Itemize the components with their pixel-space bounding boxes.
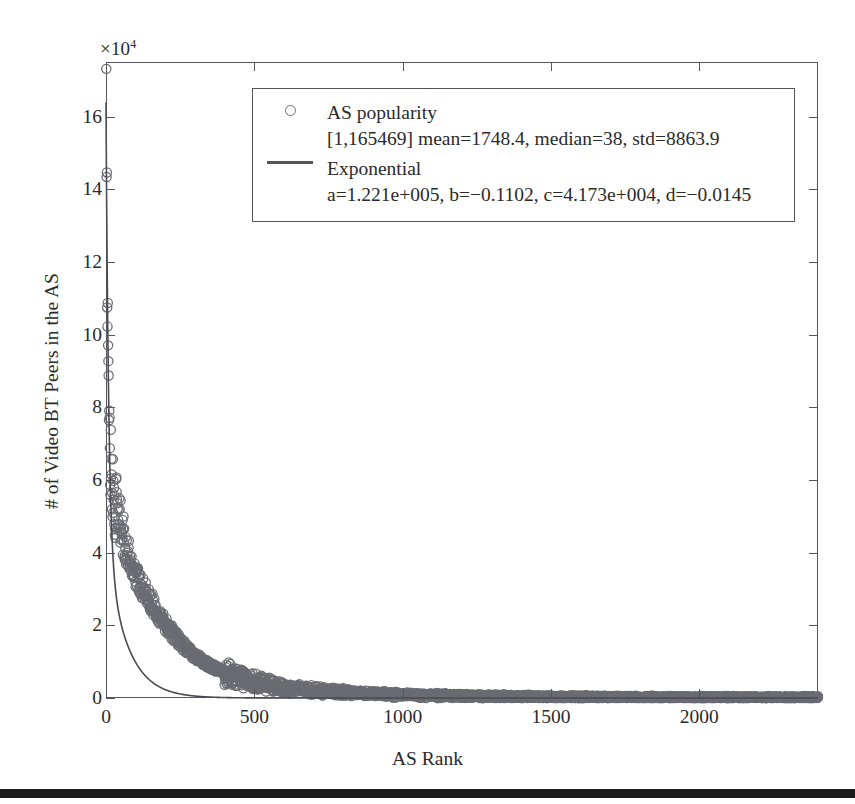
legend-key-line (253, 156, 327, 164)
y-axis-tick-mark-right (809, 553, 818, 554)
y-axis-tick-mark (106, 407, 115, 408)
x-axis-tick-mark (699, 689, 700, 698)
open-circle-icon (285, 105, 296, 116)
x-axis-tick-mark-top (106, 62, 107, 71)
legend-detail-as-popularity: [1,165469] mean=1748.4, median=38, std=8… (327, 126, 794, 152)
x-axis-tick-mark-top (403, 62, 404, 71)
x-axis-tick-mark (551, 689, 552, 698)
x-axis-tick-mark-top (254, 62, 255, 71)
legend-box: AS popularity [1,165469] mean=1748.4, me… (252, 88, 795, 222)
x-axis-title: AS Rank (0, 748, 855, 770)
x-axis-tick-mark-top (551, 62, 552, 71)
y-axis-tick-mark (106, 698, 115, 699)
legend-text-exponential: Exponential a=1.221e+005, b=−0.1102, c=4… (327, 156, 794, 208)
y-axis-tick-mark-right (809, 625, 818, 626)
x-axis-tick-mark (403, 689, 404, 698)
y-axis-title: # of Video BT Peers in the AS (41, 71, 63, 711)
line-swatch-icon (267, 161, 313, 164)
x-axis-tick-mark (106, 689, 107, 698)
y-axis-exponent-prefix: ×10 (100, 38, 130, 59)
x-axis-tick-label: 500 (240, 706, 269, 728)
y-axis-tick-mark-right (809, 698, 818, 699)
y-axis-tick-mark-right (809, 480, 818, 481)
y-axis-tick-mark-right (809, 262, 818, 263)
legend-label-as-popularity: AS popularity (327, 100, 794, 126)
y-axis-tick-mark-right (809, 189, 818, 190)
x-axis-tick-label: 2000 (680, 706, 719, 728)
y-axis-tick-mark-right (809, 117, 818, 118)
x-axis-tick-label: 0 (101, 706, 111, 728)
y-axis-tick-mark (106, 117, 115, 118)
figure-container: ×104 0246810121416 0500100015002000 AS R… (0, 0, 855, 804)
legend-label-exponential: Exponential (327, 156, 794, 182)
x-axis-tick-mark-top (699, 62, 700, 71)
legend-key-circle (253, 100, 327, 116)
y-axis-tick-mark (106, 625, 115, 626)
y-axis-tick-mark (106, 553, 115, 554)
y-axis-tick-mark (106, 335, 115, 336)
legend-detail-exponential: a=1.221e+005, b=−0.1102, c=4.173e+004, d… (327, 182, 794, 208)
y-axis-tick-mark (106, 480, 115, 481)
y-axis-exponent-power: 4 (130, 37, 136, 51)
legend-entry-as-popularity: AS popularity [1,165469] mean=1748.4, me… (253, 98, 794, 154)
x-axis-tick-label: 1500 (532, 706, 571, 728)
x-axis-tick-label: 1000 (383, 706, 422, 728)
data-point (106, 425, 115, 434)
page-scan-bar (0, 789, 855, 798)
legend-text-as-popularity: AS popularity [1,165469] mean=1748.4, me… (327, 100, 794, 152)
y-axis-tick-mark-right (809, 335, 818, 336)
x-axis-tick-mark (254, 689, 255, 698)
y-axis-tick-mark (106, 189, 115, 190)
y-axis-exponent-label: ×104 (100, 37, 137, 60)
y-axis-tick-mark (106, 262, 115, 263)
legend-entry-exponential: Exponential a=1.221e+005, b=−0.1102, c=4… (253, 154, 794, 210)
y-axis-tick-mark-right (809, 407, 818, 408)
